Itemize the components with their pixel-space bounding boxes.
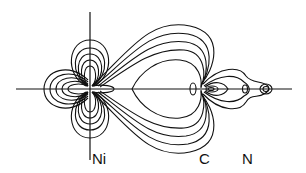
atom-label-n: N (242, 150, 253, 167)
atom-label-ni: Ni (92, 150, 106, 167)
atom-label-c: C (199, 150, 210, 167)
contour-plot (0, 0, 306, 173)
